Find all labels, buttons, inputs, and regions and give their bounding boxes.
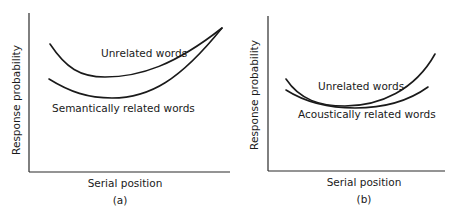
panel-a-caption: (a) bbox=[113, 194, 128, 206]
panel-a: Unrelated words Semantically related wor… bbox=[10, 13, 230, 206]
panel-a-semantic-label: Semantically related words bbox=[52, 102, 195, 114]
panel-b-acoustic-label: Acoustically related words bbox=[298, 108, 436, 120]
panel-a-x-axis-label: Serial position bbox=[88, 177, 163, 189]
panel-b-unrelated-label: Unrelated words bbox=[318, 80, 404, 92]
panel-b-caption: (b) bbox=[357, 193, 372, 205]
panel-b-x-axis-label: Serial position bbox=[327, 176, 402, 188]
panel-a-unrelated-label: Unrelated words bbox=[101, 47, 187, 59]
panel-b-y-axis-label: Response probability bbox=[248, 40, 260, 150]
panel-a-y-axis-label: Response probability bbox=[10, 45, 22, 155]
figure: Unrelated words Semantically related wor… bbox=[0, 0, 450, 212]
panel-b: Unrelated words Acoustically related wor… bbox=[248, 16, 445, 205]
panel-a-semantic-curve bbox=[49, 28, 222, 98]
